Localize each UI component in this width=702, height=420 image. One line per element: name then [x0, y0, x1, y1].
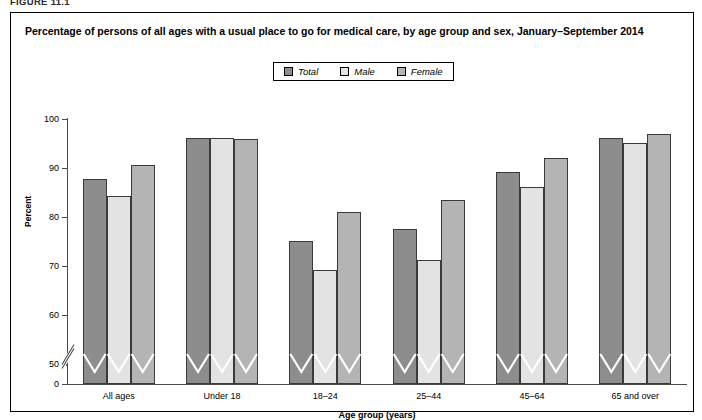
axis-break-zigzag — [67, 107, 687, 392]
bar — [313, 270, 337, 384]
bar — [289, 241, 313, 384]
chart-legend: Total Male Female — [273, 62, 454, 81]
y-tick-100 — [62, 119, 67, 120]
y-tick-label-80: 80 — [35, 212, 59, 222]
legend-label-male: Male — [354, 67, 375, 77]
y-axis-line — [67, 118, 68, 385]
bar — [337, 212, 361, 384]
bar — [234, 139, 258, 384]
x-axis-line — [67, 384, 687, 385]
y-tick-50 — [62, 364, 67, 365]
x-tick-label: All ages — [103, 391, 135, 401]
bar — [107, 196, 131, 384]
legend-entry-male: Male — [340, 67, 375, 77]
chart-title: Percentage of persons of all ages with a… — [25, 25, 675, 38]
y-tick-90 — [62, 168, 67, 169]
bar — [496, 172, 520, 384]
x-tick-label: 25–44 — [416, 391, 441, 401]
bar — [210, 138, 234, 384]
legend-entry-female: Female — [397, 67, 443, 77]
y-tick-label-0: 0 — [35, 379, 59, 389]
y-tick-70 — [62, 266, 67, 267]
legend-swatch-total — [284, 67, 293, 76]
legend-entry-total: Total — [284, 67, 318, 77]
figure-panel: Percentage of persons of all ages with a… — [10, 12, 694, 412]
bar — [393, 229, 417, 384]
bar — [417, 260, 441, 384]
bar — [83, 179, 107, 384]
bar — [647, 134, 671, 384]
y-axis-title: Percent — [23, 196, 33, 227]
x-axis-title: Age group (years) — [338, 410, 415, 420]
y-tick-label-100: 100 — [35, 114, 59, 124]
plot-area: Percent 05060708090100 All agesUnder 181… — [67, 107, 687, 392]
x-tick-label: Under 18 — [203, 391, 240, 401]
y-tick-60 — [62, 315, 67, 316]
x-tick-label: 45–64 — [519, 391, 544, 401]
y-tick-80 — [62, 217, 67, 218]
legend-swatch-female — [397, 67, 406, 76]
y-tick-label-90: 90 — [35, 163, 59, 173]
y-tick-label-50: 50 — [35, 359, 59, 369]
x-tick-label: 18–24 — [313, 391, 338, 401]
y-tick-label-70: 70 — [35, 261, 59, 271]
x-tick-label: 65 and over — [612, 391, 660, 401]
bar — [186, 138, 210, 384]
bar — [544, 158, 568, 384]
figure-label: FIGURE 11.1 — [10, 0, 70, 8]
y-tick-label-60: 60 — [35, 310, 59, 320]
y-tick-0 — [62, 384, 67, 385]
bar — [131, 165, 155, 384]
bar — [599, 138, 623, 384]
bar — [441, 200, 465, 384]
bar — [623, 143, 647, 384]
legend-label-total: Total — [298, 67, 318, 77]
legend-label-female: Female — [411, 67, 443, 77]
bar — [520, 187, 544, 384]
legend-swatch-male — [340, 67, 349, 76]
